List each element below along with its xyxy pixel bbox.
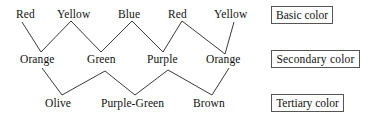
- basic-color-legend: Basic color: [271, 6, 333, 24]
- upper-zigzag-polyline: [22, 21, 234, 54]
- tertiary-color-legend: Tertiary color: [271, 94, 344, 112]
- secondary-color-legend: Secondary color: [271, 50, 360, 68]
- node-label-basic-yellow-2: Yellow: [214, 8, 247, 21]
- lower-zigzag-polyline: [42, 68, 229, 95]
- basic-color-legend-label: Basic color: [276, 8, 328, 23]
- node-label-secondary-purple: Purple: [147, 53, 178, 66]
- node-label-tertiary-olive: Olive: [45, 97, 71, 110]
- node-label-basic-yellow-1: Yellow: [57, 8, 90, 21]
- node-label-tertiary-purple-green: Purple-Green: [101, 97, 164, 110]
- node-label-basic-red-1: Red: [16, 8, 35, 21]
- node-label-tertiary-brown: Brown: [193, 97, 225, 110]
- tertiary-color-legend-label: Tertiary color: [276, 96, 339, 111]
- node-label-basic-red-2: Red: [168, 8, 187, 21]
- secondary-color-legend-label: Secondary color: [276, 52, 354, 67]
- node-label-secondary-orange-2: Orange: [206, 53, 240, 66]
- node-label-secondary-orange-1: Orange: [20, 53, 54, 66]
- diagram-canvas: Red Yellow Blue Red Yellow Orange Green …: [0, 0, 377, 120]
- node-label-basic-blue: Blue: [118, 8, 140, 21]
- node-label-secondary-green: Green: [87, 53, 116, 66]
